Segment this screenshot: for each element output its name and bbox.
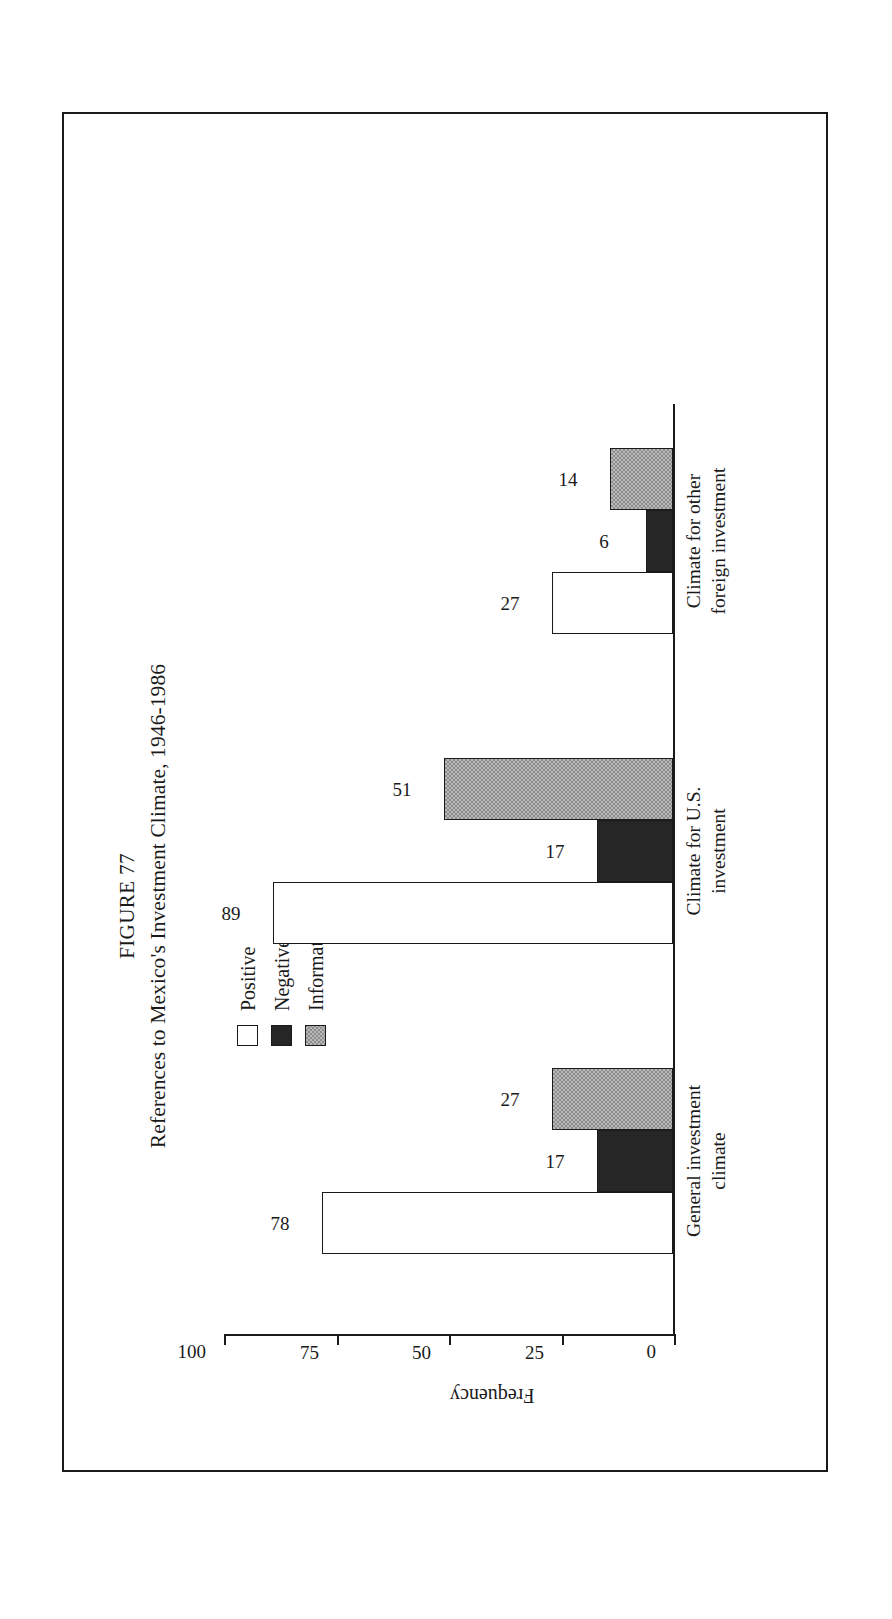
bar-value-label: 27 bbox=[500, 1090, 519, 1109]
bar-value-label: 78 bbox=[271, 1214, 290, 1233]
bar-value-label: 6 bbox=[599, 532, 609, 551]
bar-positive: 89 bbox=[273, 882, 674, 944]
figure-caption: References to Mexico's Investment Climat… bbox=[143, 246, 174, 1566]
category-axis-label: Climate for U.S. investment bbox=[681, 686, 732, 1016]
plot-area: 0255075100 Frequency 781727General inves… bbox=[225, 404, 675, 1334]
bar-informative: 27 bbox=[552, 1068, 674, 1130]
bar-group: 891751Climate for U.S. investment bbox=[223, 758, 673, 944]
value-axis-tick-label: 100 bbox=[178, 1343, 207, 1362]
category-axis-label: General investment climate bbox=[681, 996, 732, 1326]
bar-value-label: 51 bbox=[392, 780, 411, 799]
value-axis-title: Frequency bbox=[450, 1385, 534, 1408]
bar-value-label: 14 bbox=[559, 470, 578, 489]
category-axis-line bbox=[673, 404, 675, 1334]
value-axis-tick bbox=[562, 1334, 564, 1345]
bar-negative: 17 bbox=[597, 1130, 674, 1192]
bar-value-label: 89 bbox=[221, 904, 240, 923]
figure-number: FIGURE 77 bbox=[113, 246, 143, 1566]
category-axis-label: Climate for other foreign investment bbox=[681, 376, 732, 706]
rotated-figure-canvas: FIGURE 77 References to Mexico's Investm… bbox=[87, 246, 807, 1566]
bar-value-label: 17 bbox=[545, 842, 564, 861]
value-axis-tick-label: 50 bbox=[412, 1343, 431, 1362]
bar-positive: 78 bbox=[322, 1192, 673, 1254]
value-axis-tick-label: 75 bbox=[300, 1343, 319, 1362]
value-axis-tick bbox=[674, 1334, 676, 1345]
value-axis-tick-label: 0 bbox=[647, 1343, 657, 1362]
value-axis-tick-label: 25 bbox=[525, 1343, 544, 1362]
bar-informative: 14 bbox=[610, 448, 673, 510]
value-axis-tick bbox=[224, 1334, 226, 1345]
figure-page-border: FIGURE 77 References to Mexico's Investm… bbox=[62, 112, 828, 1472]
bar-informative: 51 bbox=[444, 758, 674, 820]
bar-negative: 6 bbox=[646, 510, 673, 572]
bar-group: 27614Climate for other foreign investmen… bbox=[223, 448, 673, 634]
figure-title-block: FIGURE 77 References to Mexico's Investm… bbox=[113, 246, 173, 1566]
value-axis-tick bbox=[449, 1334, 451, 1345]
bar-negative: 17 bbox=[597, 820, 674, 882]
value-axis-tick bbox=[337, 1334, 339, 1345]
bar-value-label: 27 bbox=[500, 594, 519, 613]
figure-inner: FIGURE 77 References to Mexico's Investm… bbox=[87, 246, 807, 1566]
bar-group: 781727General investment climate bbox=[223, 1068, 673, 1254]
bar-positive: 27 bbox=[552, 572, 674, 634]
bar-value-label: 17 bbox=[545, 1152, 564, 1171]
